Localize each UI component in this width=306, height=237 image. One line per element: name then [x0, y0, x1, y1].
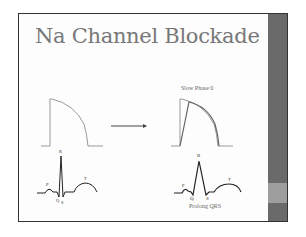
ecg-left-r-label: R: [59, 149, 62, 154]
ecg-left-p-label: P: [46, 182, 49, 187]
prolong-qrs-caption: Prolong QRS: [189, 203, 221, 209]
ecg-left-q-label: Q: [56, 198, 59, 203]
diagram-canvas: [19, 14, 288, 222]
ecg-left-s-label: S: [61, 200, 64, 205]
slide: Na Channel Blockade Slow Phase 0 Prolong…: [18, 13, 288, 222]
ecg-right-s-label: S: [206, 196, 209, 201]
ecg-normal: [37, 156, 97, 197]
ecg-right-p-label: P: [182, 183, 185, 188]
ecg-left-t-label: T: [84, 176, 87, 181]
action-potential-normal: [41, 99, 103, 146]
action-potential-slow-phase0: [180, 102, 219, 146]
arrow-head: [143, 124, 147, 128]
ecg-right-t-label: T: [228, 177, 231, 182]
action-potential-normal-right: [171, 99, 233, 146]
slow-phase-0-caption: Slow Phase 0: [181, 85, 213, 91]
ecg-right-r-label: R: [197, 153, 200, 158]
ecg-right-q-label: Q: [190, 196, 194, 201]
